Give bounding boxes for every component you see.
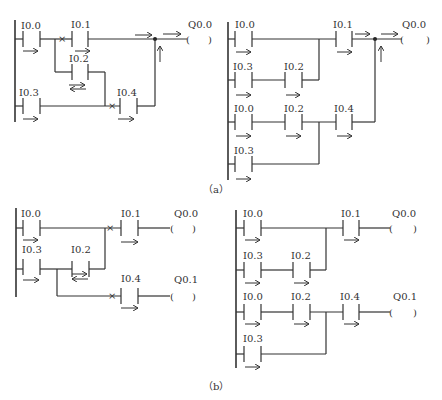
svg-text:I0.1: I0.1 xyxy=(333,19,353,30)
svg-text:Q0.1: Q0.1 xyxy=(174,274,198,285)
break-mark: × xyxy=(58,33,66,44)
svg-text:(: ( xyxy=(400,34,404,45)
contact-i0-2: I0.2 xyxy=(291,250,311,283)
svg-text:I0.0: I0.0 xyxy=(21,20,41,31)
contact-i0-0-b: I0.0 xyxy=(234,103,254,136)
contact-i0-0-b: I0.0 xyxy=(243,291,263,324)
svg-text:I0.3: I0.3 xyxy=(234,145,254,156)
svg-text:I0.0: I0.0 xyxy=(243,208,263,219)
caption-b: （b） xyxy=(203,381,229,392)
svg-text:I0.2: I0.2 xyxy=(284,61,304,72)
contact-i0-4: I0.4 xyxy=(117,87,137,119)
contact-i0-0: I0.0 xyxy=(243,208,263,240)
svg-text:I0.4: I0.4 xyxy=(117,87,137,98)
svg-text:Q0.0: Q0.0 xyxy=(188,19,212,30)
svg-text:): ) xyxy=(413,223,417,234)
svg-text:×: × xyxy=(108,100,116,111)
svg-text:): ) xyxy=(192,223,196,234)
ladder-diagram-b-right: I0.0 I0.1 Q0.0 () I0.3 I0.2 I0.0 I0.2 xyxy=(236,208,417,368)
contact-i0-3-b: I0.3 xyxy=(234,145,254,179)
svg-text:Q0.1: Q0.1 xyxy=(393,291,417,302)
svg-text:(: ( xyxy=(186,34,190,45)
svg-text:I0.0: I0.0 xyxy=(235,19,255,30)
svg-text:(: ( xyxy=(389,223,393,234)
contact-i0-4: I0.4 xyxy=(334,103,354,136)
contact-i0-0: I0.0 xyxy=(235,19,255,52)
svg-text:(: ( xyxy=(389,307,393,318)
contact-i0-1: I0.1 xyxy=(121,208,141,242)
ladder-diagram-a-left: I0.0 × I0.1 Q0.0 () I0.2 xyxy=(15,19,212,122)
contact-i0-0: I0.0 xyxy=(21,20,41,51)
svg-text:I0.4: I0.4 xyxy=(121,273,141,284)
contact-i0-1: I0.1 xyxy=(333,19,370,52)
coil-q0-1: Q0.1 () xyxy=(389,291,417,318)
coil-q0-1: Q0.1 () xyxy=(170,274,198,302)
svg-text:I0.3: I0.3 xyxy=(19,87,39,98)
svg-text:I0.4: I0.4 xyxy=(340,291,360,302)
svg-text:): ) xyxy=(413,307,417,318)
contact-i0-1: I0.1 xyxy=(71,19,91,51)
svg-text:I0.1: I0.1 xyxy=(341,208,361,219)
svg-text:I0.4: I0.4 xyxy=(334,103,354,114)
svg-text:): ) xyxy=(208,34,212,45)
contact-i0-3-b: I0.3 xyxy=(243,333,263,367)
svg-text:I0.0: I0.0 xyxy=(243,291,263,302)
caption-a: （a） xyxy=(203,184,229,195)
svg-text:I0.2: I0.2 xyxy=(69,53,89,64)
contact-i0-4: I0.4 xyxy=(340,291,360,324)
svg-text:(: ( xyxy=(170,291,174,302)
coil-q0-0: Q0.0 () xyxy=(400,19,430,45)
svg-text:I0.1: I0.1 xyxy=(121,208,141,219)
svg-text:): ) xyxy=(192,291,196,302)
ladder-diagram-b-left: I0.0 × I0.1 Q0.0 () I0.3 I0.2 × I0.4 xyxy=(16,208,198,308)
contact-i0-0: I0.0 xyxy=(21,208,41,240)
svg-text:I0.0: I0.0 xyxy=(234,103,254,114)
contact-i0-4: I0.4 xyxy=(121,273,141,308)
svg-text:Q0.0: Q0.0 xyxy=(392,208,416,219)
contact-i0-2: I0.2 xyxy=(69,53,89,89)
contact-i0-3: I0.3 xyxy=(233,61,253,95)
contact-i0-2: I0.2 xyxy=(71,244,91,279)
svg-text:I0.3: I0.3 xyxy=(243,333,263,344)
coil-q0-0: Q0.0 () xyxy=(389,208,417,234)
contact-i0-1: I0.1 xyxy=(341,208,361,240)
contact-i0-3: I0.3 xyxy=(22,244,42,280)
coil-q0-0: Q0.0 () xyxy=(170,208,198,234)
svg-text:I0.2: I0.2 xyxy=(291,291,311,302)
contact-i0-2: I0.2 xyxy=(284,61,304,95)
svg-text:): ) xyxy=(426,34,430,45)
coil-q0-0: Q0.0 () xyxy=(186,19,212,45)
svg-text:I0.1: I0.1 xyxy=(71,19,91,30)
svg-text:(: ( xyxy=(170,223,174,234)
svg-text:I0.2: I0.2 xyxy=(71,244,91,255)
svg-text:×: × xyxy=(106,222,114,233)
svg-text:×: × xyxy=(108,290,116,301)
contact-i0-2-b: I0.2 xyxy=(284,103,304,136)
contact-i0-2-b: I0.2 xyxy=(291,291,311,324)
svg-text:I0.3: I0.3 xyxy=(233,61,253,72)
ladder-diagram-a-right: I0.0 I0.1 Q0.0 () I0.3 I0.2 I0.0 xyxy=(228,19,430,180)
svg-text:I0.2: I0.2 xyxy=(284,103,304,114)
svg-text:I0.2: I0.2 xyxy=(291,250,311,261)
svg-text:I0.3: I0.3 xyxy=(22,244,42,255)
svg-text:I0.0: I0.0 xyxy=(21,208,41,219)
svg-text:Q0.0: Q0.0 xyxy=(174,208,198,219)
svg-text:I0.3: I0.3 xyxy=(243,250,263,261)
contact-i0-3: I0.3 xyxy=(19,87,40,119)
contact-i0-3: I0.3 xyxy=(243,250,263,283)
svg-text:Q0.0: Q0.0 xyxy=(402,19,426,30)
